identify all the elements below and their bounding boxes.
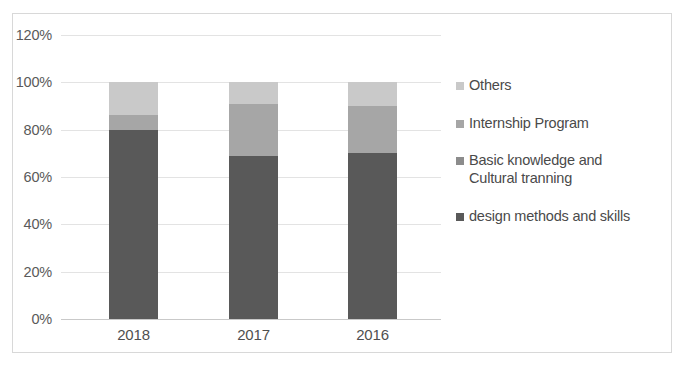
legend-item[interactable]: Others <box>456 77 671 95</box>
chart-frame: 0%20%40%60%80%100%120%201820172016 Other… <box>12 13 672 353</box>
legend-item[interactable]: design methods and skills <box>456 208 671 226</box>
bar-segment[interactable] <box>109 115 158 129</box>
x-axis-tick-label: 2018 <box>109 326 158 343</box>
y-axis-tick-label: 120% <box>16 27 52 43</box>
stacked-bar-2016[interactable] <box>348 82 397 319</box>
bar-segment[interactable] <box>109 130 158 319</box>
legend-item[interactable]: Basic knowledge and Cultural tranning <box>456 152 671 187</box>
x-axis-tick-label: 2016 <box>348 326 397 343</box>
stacked-bar-2017[interactable] <box>229 82 278 319</box>
gridline-120 <box>61 35 441 36</box>
y-axis-tick-label: 20% <box>24 264 52 280</box>
legend-swatch-icon <box>456 157 464 165</box>
legend-swatch-icon <box>456 120 464 128</box>
bar-segment[interactable] <box>348 82 397 106</box>
legend-swatch-icon <box>456 213 464 221</box>
y-axis-tick-label: 60% <box>24 169 52 185</box>
legend-item-label: design methods and skills <box>469 208 630 226</box>
bar-segment[interactable] <box>348 106 397 153</box>
x-axis-line <box>61 319 441 320</box>
y-axis-tick-label: 40% <box>24 216 52 232</box>
x-axis-tick-label: 2017 <box>229 326 278 343</box>
chart-legend: OthersInternship ProgramBasic knowledge … <box>456 77 671 245</box>
legend-item-label: Others <box>469 77 511 95</box>
legend-item-label: Internship Program <box>469 115 589 133</box>
bar-segment[interactable] <box>229 156 278 319</box>
legend-swatch-icon <box>456 82 464 90</box>
bar-segment[interactable] <box>348 153 397 319</box>
y-axis-tick-label: 0% <box>31 311 52 327</box>
y-axis-tick-label: 100% <box>16 74 52 90</box>
stacked-bar-2018[interactable] <box>109 82 158 319</box>
y-axis-tick-label: 80% <box>24 122 52 138</box>
bar-segment[interactable] <box>229 82 278 103</box>
bar-segment[interactable] <box>229 104 278 156</box>
legend-item[interactable]: Internship Program <box>456 115 671 133</box>
legend-item-label: Basic knowledge and Cultural tranning <box>469 152 602 187</box>
bar-segment[interactable] <box>109 82 158 115</box>
plot-area: 0%20%40%60%80%100%120%201820172016 <box>61 35 441 319</box>
